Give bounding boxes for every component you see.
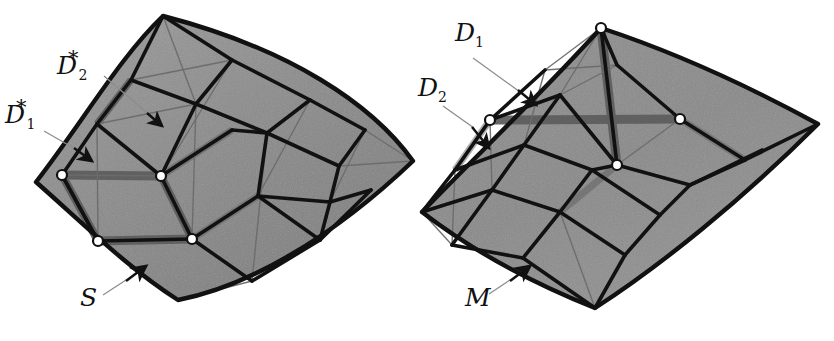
figure-canvas: D*2 D*1 S D1 D2 M [0, 0, 834, 341]
right-surface-group [422, 23, 818, 308]
label-d1-star-sup: * [16, 95, 27, 119]
ribbon-d1 [490, 119, 680, 120]
label-d2-star: D*2 [57, 48, 87, 82]
vertex-marker [485, 115, 495, 125]
vertex-marker [612, 160, 622, 170]
leader-d1 [473, 58, 520, 92]
left-surface-fill [36, 16, 413, 300]
label-d1-star-sub: 1 [27, 116, 36, 132]
leader-s [103, 280, 126, 295]
label-d1-star: D*1 [5, 97, 35, 131]
label-d2-star-sup: * [68, 46, 79, 70]
label-s: S [80, 285, 97, 310]
label-d1: D1 [455, 20, 484, 49]
label-d1-base: D [455, 18, 475, 47]
label-d2-sub: 2 [438, 89, 447, 105]
vertex-marker [187, 234, 197, 244]
leader-m [489, 280, 510, 294]
mesh-diagram-svg [0, 0, 834, 341]
vertex-marker [596, 23, 606, 33]
vertex-marker [675, 114, 685, 124]
label-d2: D2 [418, 75, 447, 104]
label-m-base: M [465, 283, 491, 312]
vertex-marker [156, 171, 166, 181]
label-s-base: S [80, 283, 97, 312]
label-d2-base: D [418, 73, 438, 102]
label-d2-star-sub: 2 [79, 67, 88, 83]
label-d1-sub: 1 [475, 34, 484, 50]
label-m: M [465, 285, 491, 310]
left-surface-group [36, 16, 413, 300]
leader-d2 [443, 106, 474, 128]
vertex-marker [93, 236, 103, 246]
vertex-marker [57, 170, 67, 180]
